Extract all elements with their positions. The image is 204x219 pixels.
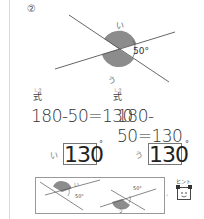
- answer-mark-i: い: [50, 149, 58, 160]
- answer-unit-i: °: [99, 140, 103, 149]
- hint-angle-2: 50°: [133, 185, 142, 191]
- hint-character-icon[interactable]: [175, 184, 193, 202]
- hint-angle-1: 50°: [75, 193, 84, 199]
- answer-box-i[interactable]: 130: [63, 143, 97, 165]
- answer-mark-u: う: [135, 149, 143, 160]
- angle-i-shade: [104, 31, 136, 49]
- hint-label: ヒント: [176, 177, 191, 184]
- formula-label-1: しき 式: [33, 89, 42, 102]
- answer-unit-u: °: [185, 140, 189, 149]
- label-i: い: [116, 19, 124, 30]
- intersecting-lines-diagram: [0, 0, 204, 100]
- angle-u-shade: [102, 49, 134, 67]
- answer-box-u[interactable]: 130: [148, 143, 182, 165]
- hint-label-u: う: [118, 206, 123, 213]
- hint-diagrams: [35, 177, 165, 214]
- formula-label-2: しき 式: [113, 89, 122, 102]
- label-u: う: [108, 74, 116, 85]
- equation-2[interactable]: 180-50=130: [117, 106, 204, 146]
- hint-label-i: い: [74, 180, 79, 187]
- angle-50-label: 50°: [133, 46, 149, 56]
- hint-connector: ›: [166, 191, 168, 198]
